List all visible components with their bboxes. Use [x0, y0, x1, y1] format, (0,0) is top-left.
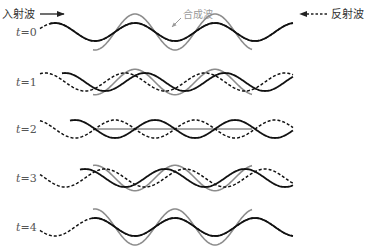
incident-wave: [80, 169, 293, 187]
composite-wave: [93, 209, 252, 245]
incident-wave: [92, 218, 293, 236]
time-row-t4: t=4: [16, 209, 293, 245]
time-row-t0: t=0: [16, 14, 293, 50]
composite-wave: [93, 14, 252, 50]
time-value: =1: [20, 76, 36, 89]
time-rows: t=0t=1t=2t=3t=4: [16, 14, 293, 245]
legend-reflected: 反射波: [300, 7, 364, 21]
composite-pointer-arrow-icon: [172, 18, 181, 27]
time-row-t3: t=3: [16, 165, 293, 190]
time-value: =3: [20, 172, 36, 185]
time-row-t2: t=2: [16, 120, 293, 138]
time-label: t=0: [16, 26, 37, 39]
reflected-wave-label: 反射波: [331, 7, 364, 21]
composite-wave-label: 合成波: [183, 8, 213, 20]
time-value: =0: [20, 26, 36, 39]
legend-incident: 入射波: [2, 7, 64, 21]
incident-wave: [62, 73, 293, 91]
time-label: t=2: [16, 123, 37, 136]
incident-wave-label: 入射波: [2, 7, 35, 21]
composite-wave: [93, 165, 252, 190]
time-row-t1: t=1: [16, 69, 293, 94]
time-value: =2: [20, 123, 36, 136]
time-label: t=3: [16, 172, 37, 185]
standing-wave-diagram: 入射波 反射波 合成波 t=0t=1t=2t=3t=4: [0, 0, 365, 247]
incident-wave: [50, 23, 293, 41]
time-value: =4: [20, 221, 36, 234]
time-label: t=4: [16, 221, 37, 234]
time-label: t=1: [16, 76, 37, 89]
